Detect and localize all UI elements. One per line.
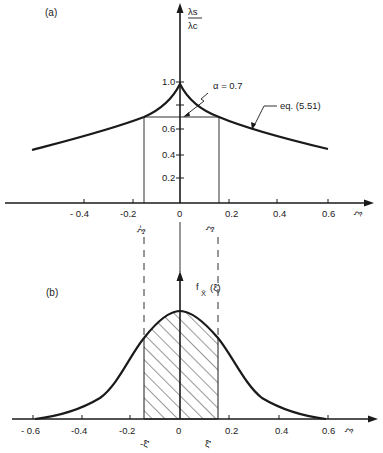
x-tick-label: 0: [177, 208, 182, 219]
panel-a-label: (a): [45, 7, 57, 18]
y-tick-label: 1.0: [162, 76, 175, 87]
panel-b: (b) - 0.6 -0.4 -0.2 0 0.2 0.4 0.6 ξ̄: [12, 222, 378, 449]
panel-b-label: (b): [46, 287, 58, 298]
x-tick-label: 0: [176, 425, 181, 436]
x-tick-label: -0.2: [119, 425, 135, 436]
x-axis-arrow-b-icon: [368, 416, 378, 423]
neg-xi-prime-label-a: -ξ̄': [136, 225, 147, 234]
y-axis-label-numerator: λs: [188, 6, 198, 17]
panel-a: (a) - 0.4 -0.2 0 0.2 0.4 0.6 ξ̄ 1.0: [5, 3, 374, 234]
eq-leader: [254, 106, 277, 126]
y-axis-label-b: f: [196, 281, 199, 292]
x-tick-label: -0.4: [71, 425, 87, 436]
x-axis-label-b: ξ̄: [344, 428, 355, 434]
x-tick-label: 0.4: [275, 425, 288, 436]
x-tick-label: 0.2: [225, 208, 238, 219]
y-axis-arrow-a-icon: [177, 3, 184, 13]
y-axis-label-b-sub: X̄: [201, 289, 206, 298]
alpha-arrow-icon: [183, 112, 190, 117]
x-tick-label: 0.6: [322, 208, 335, 219]
pos-xi-prime-label-a: ξ̄': [205, 226, 216, 232]
x-tick-label: - 0.6: [21, 425, 40, 436]
figure: (a) - 0.4 -0.2 0 0.2 0.4 0.6 ξ̄ 1.0: [0, 0, 383, 453]
y-tick-label: 0.4: [162, 149, 175, 160]
y-axis-label-denominator: λc: [188, 20, 198, 31]
x-axis-label-a: ξ̄: [353, 211, 364, 217]
eq-annotation: eq. (5.51): [280, 100, 321, 111]
y-tick-label: 0.6: [162, 123, 175, 134]
x-tick-label: 0.6: [322, 425, 335, 436]
x-tick-label: 0.2: [225, 425, 238, 436]
alpha-annotation: α = 0.7: [213, 80, 243, 91]
y-axis-arrow-b-icon: [177, 271, 184, 281]
x-tick-label: 0.4: [273, 208, 286, 219]
x-axis-arrow-a-icon: [364, 200, 374, 207]
x-tick-label: - 0.4: [70, 208, 89, 219]
x-tick-label: -0.2: [120, 208, 136, 219]
y-tick-label: 0.2: [162, 172, 175, 183]
neg-xi-prime-label-b: -ξ̄': [140, 438, 149, 449]
pos-xi-prime-label-b: ξ̄': [205, 438, 211, 449]
y-axis-label-b-arg: (ξ̄): [210, 282, 221, 293]
